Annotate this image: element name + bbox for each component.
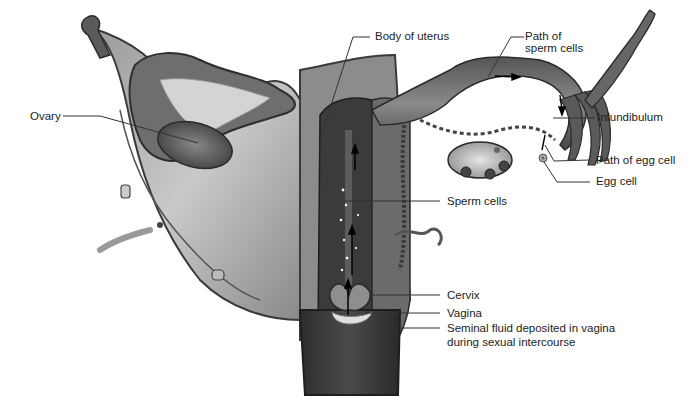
anatomy-diagram: Ovary Body of uterus Path of sperm cells…	[0, 0, 699, 407]
label-seminal-fluid-line1: Seminal fluid deposited in vagina	[447, 322, 615, 335]
label-infundibulum: Infundibulum	[597, 111, 663, 124]
label-path-of-egg-cell: Path of egg cell	[596, 154, 675, 167]
reproductive-tract-illustration	[0, 0, 699, 407]
label-path-of-sperm-line2: sperm cells	[525, 42, 583, 55]
label-seminal-fluid-line2: during sexual intercourse	[447, 336, 576, 349]
label-vagina: Vagina	[447, 307, 482, 320]
uterine-canal	[300, 98, 441, 395]
right-ovary	[448, 142, 512, 178]
label-sperm-cells: Sperm cells	[447, 195, 507, 208]
label-ovary: Ovary	[30, 110, 61, 123]
label-body-of-uterus: Body of uterus	[375, 30, 449, 43]
label-egg-cell: Egg cell	[596, 175, 637, 188]
label-cervix: Cervix	[447, 289, 480, 302]
